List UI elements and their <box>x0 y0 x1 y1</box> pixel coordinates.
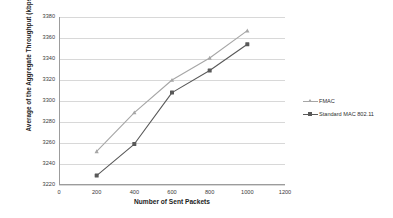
x-axis-tick-label: 400 <box>119 190 149 196</box>
data-point <box>208 69 212 73</box>
x-axis-tick-label: 1000 <box>232 190 262 196</box>
gridline <box>59 185 285 186</box>
x-axis-title: Number of Sent Packets <box>59 198 285 205</box>
data-point <box>245 29 249 33</box>
plot-area <box>59 17 285 185</box>
x-axis-tick-label: 1200 <box>270 190 300 196</box>
data-point <box>170 78 174 82</box>
x-axis-tick-label: 800 <box>195 190 225 196</box>
legend-label: FMAC <box>319 99 335 105</box>
y-axis-tick-label: 3240 <box>31 161 55 167</box>
series-line-2 <box>97 44 248 175</box>
y-axis-tick-label: 3380 <box>31 14 55 20</box>
y-axis-tick-label: 3280 <box>31 119 55 125</box>
y-axis-tick-label: 3340 <box>31 56 55 62</box>
x-axis-tick-label: 0 <box>44 190 74 196</box>
y-axis-tick-label: 3260 <box>31 140 55 146</box>
legend-entry[interactable]: FMAC <box>303 96 393 107</box>
chart-legend: FMACStandard MAC 802.11 <box>303 96 393 122</box>
legend-label: Standard MAC 802.11 <box>319 112 374 118</box>
data-point <box>132 142 136 146</box>
legend-entry[interactable]: Standard MAC 802.11 <box>303 109 393 120</box>
y-axis-tick-label: 3220 <box>31 182 55 188</box>
data-point <box>245 42 249 46</box>
y-axis-tick-label: 3300 <box>31 98 55 104</box>
y-axis-tick-label: 3360 <box>31 35 55 41</box>
data-point <box>170 91 174 95</box>
data-point <box>95 174 99 178</box>
series-plot <box>59 17 285 185</box>
legend-swatch-icon <box>303 98 318 106</box>
legend-swatch-icon <box>303 111 318 119</box>
x-axis-tick-label: 200 <box>82 190 112 196</box>
x-axis-tick-label: 600 <box>157 190 187 196</box>
y-axis-tick-label: 3320 <box>31 77 55 83</box>
chart-figure: Average of the Aggregate Throughput (kbp… <box>0 0 393 218</box>
